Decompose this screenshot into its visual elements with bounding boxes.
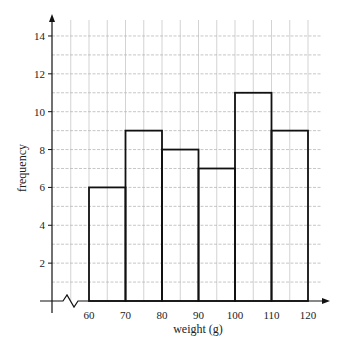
- x-tick-label: 120: [300, 309, 317, 321]
- y-tick-label: 12: [34, 68, 45, 80]
- x-axis-line-with-break: [40, 295, 326, 307]
- axes: [40, 14, 330, 313]
- x-tick-label: 100: [227, 309, 244, 321]
- y-tick-label: 8: [40, 144, 46, 156]
- x-axis-label: weight (g): [173, 322, 223, 336]
- x-tick-label: 110: [263, 309, 280, 321]
- x-tick-label: 80: [157, 309, 169, 321]
- x-tick-label: 60: [84, 309, 96, 321]
- y-tick-label: 10: [34, 106, 46, 118]
- x-tick-label: 90: [193, 309, 205, 321]
- x-axis-arrow-icon: [322, 298, 330, 304]
- y-tick-label: 6: [40, 181, 46, 193]
- y-axis-arrow-icon: [49, 14, 55, 22]
- grid-lines: [52, 20, 322, 301]
- x-tick-label: 70: [120, 309, 132, 321]
- histogram-chart: 246810121460708090100110120 weight (g) f…: [0, 0, 347, 352]
- y-axis-label: frequency: [15, 144, 29, 192]
- y-tick-label: 14: [34, 30, 46, 42]
- y-tick-label: 2: [40, 257, 46, 269]
- y-tick-label: 4: [40, 219, 46, 231]
